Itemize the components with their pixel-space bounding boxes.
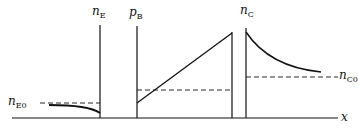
nE0-label: nE0 (8, 94, 27, 110)
nC0-label: nC0 (339, 68, 358, 84)
carrier-profile-diagram (0, 0, 358, 135)
collector-minority-carrier-curve (246, 32, 321, 72)
nE-label: nE (92, 4, 106, 20)
nC-label: nC (240, 3, 254, 19)
base-carrier-profile-line (137, 33, 232, 103)
emitter-minority-carrier-curve (49, 105, 100, 113)
x-axis-label: x (341, 110, 348, 124)
pB-label: pB (129, 5, 143, 21)
